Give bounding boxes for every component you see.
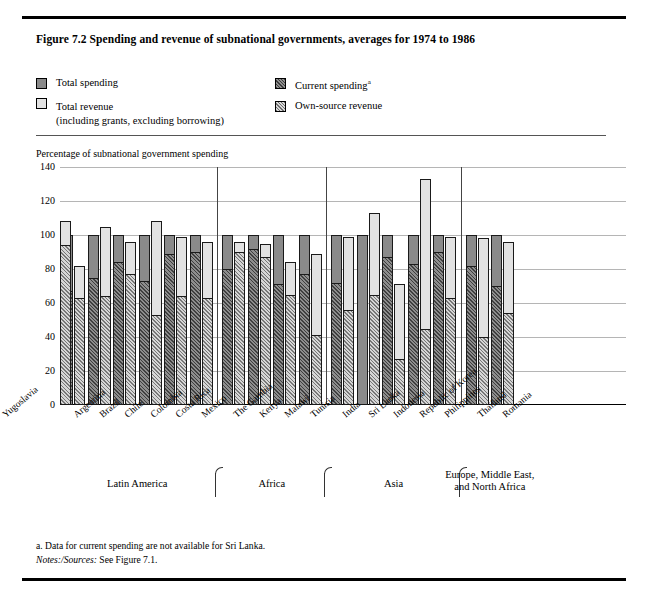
bar-total-spending — [331, 235, 342, 405]
total-spending-swatch-icon — [36, 78, 47, 89]
bar-current-spending — [433, 252, 444, 405]
legend-label-current-spending: Current spendinga — [295, 76, 371, 92]
bar-total-spending — [273, 235, 284, 405]
bar-total-spending — [357, 235, 368, 405]
current-spending-swatch-icon — [275, 78, 286, 89]
sources-label: Notes:/Sources: — [36, 554, 97, 565]
region-bracket-curve — [215, 467, 223, 475]
legend-column-right: Current spendinga Own-source revenue — [275, 76, 382, 119]
y-axis-tick-label: 100 — [29, 229, 55, 240]
bar-current-spending — [331, 283, 342, 405]
y-axis-tick-label: 60 — [29, 297, 55, 308]
bar-total-spending — [248, 235, 259, 405]
bar-own-source-revenue — [343, 310, 354, 405]
bar-current-spending — [88, 278, 99, 406]
bar-total-spending — [491, 235, 502, 405]
bar-current-spending — [491, 286, 502, 405]
legend-label-total-revenue: Total revenue — [56, 101, 113, 112]
legend-item-current-spending: Current spendinga — [275, 76, 382, 92]
gridline — [60, 167, 626, 168]
region-separator — [326, 167, 327, 405]
bar-total-spending — [190, 235, 201, 405]
region-separator — [217, 167, 218, 405]
bar-total-revenue — [60, 221, 71, 405]
bar-total-spending — [139, 235, 150, 405]
bar-total-spending — [299, 235, 310, 405]
figure-notes: a. Data for current spending are not ava… — [36, 539, 265, 566]
figure-title: Figure 7.2 Spending and revenue of subna… — [36, 33, 475, 45]
bar-current-spending — [408, 264, 419, 405]
gridline — [60, 201, 626, 202]
bar-current-spending — [382, 257, 393, 405]
bar-current-spending — [248, 249, 259, 405]
bar-total-revenue — [369, 213, 380, 405]
bar-current-spending — [273, 284, 284, 405]
legend-column-left: Total spending Total revenue (including … — [36, 76, 224, 134]
bar-total-spending — [408, 235, 419, 405]
bar-current-spending — [190, 252, 201, 405]
bar-total-revenue — [343, 237, 354, 405]
legend-label-own-source-revenue: Own-source revenue — [295, 99, 382, 112]
bar-total-spending — [113, 235, 124, 405]
chart-plot-area: 020406080100120140 — [60, 167, 626, 405]
region-label-line: and North Africa — [415, 481, 565, 493]
bar-own-source-revenue — [60, 245, 71, 405]
bar-own-source-revenue — [478, 337, 489, 405]
bar-total-spending — [88, 235, 99, 405]
total-revenue-swatch-icon — [36, 98, 47, 109]
bar-current-spending — [164, 254, 175, 405]
bar-total-spending — [382, 235, 393, 405]
y-axis-tick-label: 140 — [29, 161, 55, 172]
bar-current-spending — [299, 274, 310, 405]
bar-own-source-revenue — [151, 315, 162, 405]
sources-line: Notes:/Sources: See Figure 7.1. — [36, 553, 265, 567]
legend-divider — [36, 135, 606, 136]
region-label-line: Latin America — [62, 478, 212, 490]
y-axis-tick-label: 80 — [29, 263, 55, 274]
region-label-line: Europe, Middle East, — [415, 469, 565, 481]
bar-own-source-revenue — [74, 298, 85, 405]
bar-total-revenue — [420, 179, 431, 405]
bar-total-spending — [164, 235, 175, 405]
bar-total-revenue — [125, 242, 136, 405]
bar-total-revenue — [176, 237, 187, 405]
legend-item-total-revenue: Total revenue (including grants, excludi… — [36, 96, 224, 127]
legend-label-total-spending: Total spending — [56, 76, 118, 89]
bar-total-revenue — [151, 221, 162, 405]
figure-container: Figure 7.2 Spending and revenue of subna… — [0, 0, 647, 603]
bar-current-spending — [113, 262, 124, 405]
bar-total-revenue — [503, 242, 514, 405]
bar-total-revenue — [202, 242, 213, 405]
bar-total-revenue — [478, 238, 489, 405]
bar-own-source-revenue — [369, 295, 380, 406]
bottom-rule — [22, 578, 626, 581]
bar-total-revenue — [234, 242, 245, 405]
bar-current-spending — [222, 269, 233, 405]
bar-own-source-revenue — [234, 252, 245, 405]
bar-total-revenue — [100, 227, 111, 406]
bar-own-source-revenue — [285, 295, 296, 406]
region-label: Latin America — [62, 478, 212, 490]
legend-item-total-spending: Total spending — [36, 76, 224, 89]
y-axis-tick-label: 0 — [29, 399, 55, 410]
bar-own-source-revenue — [125, 274, 136, 405]
footnote-marker-a: a — [368, 78, 371, 86]
bar-total-revenue — [74, 266, 85, 405]
bar-total-spending — [433, 235, 444, 405]
bar-total-spending — [222, 235, 233, 405]
bar-total-revenue — [285, 262, 296, 405]
y-axis-tick-label: 40 — [29, 331, 55, 342]
legend-item-own-source-revenue: Own-source revenue — [275, 99, 382, 112]
region-bracket-curve — [324, 467, 332, 475]
top-rule — [22, 16, 626, 19]
footnote-a: a. Data for current spending are not ava… — [36, 539, 265, 553]
bar-own-source-revenue — [503, 313, 514, 405]
bar-own-source-revenue — [311, 335, 322, 405]
bar-current-spending — [139, 281, 150, 405]
region-separator — [461, 167, 462, 405]
y-axis-caption: Percentage of subnational government spe… — [36, 148, 228, 159]
sources-text: See Figure 7.1. — [97, 554, 158, 565]
bar-total-revenue — [311, 254, 322, 405]
region-label: Europe, Middle East,and North Africa — [415, 469, 565, 493]
y-axis-tick-label: 120 — [29, 195, 55, 206]
